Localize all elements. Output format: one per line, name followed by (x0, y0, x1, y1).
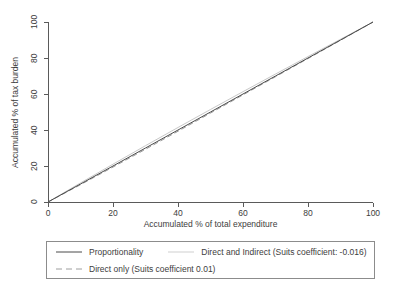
legend-entry-direct-only[interactable]: Direct only (Suits coefficient 0.01) (47, 260, 215, 277)
legend-row-bottom: Direct only (Suits coefficient 0.01) (47, 260, 374, 277)
x-axis-title: Accumulated % of total expenditure (48, 219, 373, 229)
x-tick-label-40: 40 (163, 208, 193, 218)
x-tick-label-20: 20 (98, 208, 128, 218)
legend-label-proportionality: Proportionality (89, 247, 143, 257)
x-tick-100 (373, 203, 374, 207)
y-tick-label-0: 0 (29, 195, 40, 209)
plot-area (48, 22, 373, 202)
legend-label-direct-only: Direct only (Suits coefficient 0.01) (89, 264, 215, 274)
y-tick-label-40: 40 (29, 119, 40, 141)
y-tick-label-60: 60 (29, 83, 40, 105)
plot-canvas (48, 22, 373, 202)
y-tick-20 (44, 166, 48, 167)
x-tick-label-60: 60 (228, 208, 258, 218)
y-axis-line (48, 22, 49, 202)
y-axis-title: Accumulated % of tax burden (8, 22, 21, 202)
legend-entry-proportionality[interactable]: Proportionality (47, 243, 143, 260)
y-tick-label-20: 20 (29, 155, 40, 177)
y-tick-label-80: 80 (29, 47, 40, 69)
x-tick-label-100: 100 (358, 208, 388, 218)
y-tick-40 (44, 130, 48, 131)
legend-key-solid-light-icon (167, 246, 195, 258)
x-tick-label-80: 80 (293, 208, 323, 218)
legend-key-dashed-icon (55, 263, 83, 275)
series-line-proportionality (48, 22, 373, 202)
y-tick-60 (44, 94, 48, 95)
x-tick-label-0: 0 (33, 208, 63, 218)
y-tick-100 (44, 22, 48, 23)
legend-row-top: Proportionality Direct and Indirect (Sui… (47, 243, 374, 260)
x-tick-20 (113, 203, 114, 207)
legend-entry-direct-and-indirect[interactable]: Direct and Indirect (Suits coefficient: … (159, 243, 366, 260)
x-tick-0 (48, 203, 49, 207)
y-tick-label-100: 100 (29, 7, 40, 37)
y-tick-80 (44, 58, 48, 59)
legend-label-direct-and-indirect: Direct and Indirect (Suits coefficient: … (201, 247, 366, 257)
chart-figure: 0 20 40 60 80 100 0 20 40 60 80 100 Accu… (0, 0, 393, 291)
legend-key-solid-dark-icon (55, 246, 83, 258)
x-tick-60 (243, 203, 244, 207)
x-tick-40 (178, 203, 179, 207)
x-tick-80 (308, 203, 309, 207)
chart-legend: Proportionality Direct and Indirect (Sui… (46, 241, 375, 279)
x-axis-line (48, 202, 373, 203)
